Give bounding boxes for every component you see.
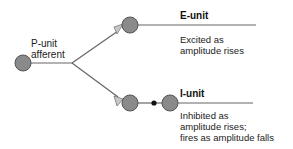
interneuron-icon [122, 95, 138, 111]
afferent-label-line1: P-unit [31, 38, 65, 49]
e-unit-description: Excited as amplitude rises [180, 34, 244, 56]
i-unit-description: Inhibited as amplitude rises; fires as a… [180, 110, 274, 143]
e-unit-desc-line1: Excited as [180, 34, 244, 45]
afferent-label-line2: afferent [31, 49, 65, 60]
i-unit-desc-line1: Inhibited as [180, 110, 274, 121]
inhibitory-synapse-icon [151, 100, 156, 105]
p-unit-neuron-icon [15, 55, 31, 71]
branch-to-e-unit [72, 31, 118, 63]
e-unit-title: E-unit [180, 10, 208, 21]
e-unit-desc-line2: amplitude rises [180, 45, 244, 56]
i-unit-desc-line3: fires as amplitude falls [180, 132, 274, 143]
i-unit-neuron-icon [162, 95, 178, 111]
afferent-label: P-unit afferent [31, 38, 65, 60]
e-unit-neuron-icon [122, 17, 138, 33]
i-unit-title: I-unit [180, 88, 204, 99]
branch-to-interneuron [72, 63, 118, 97]
i-unit-desc-line2: amplitude rises; [180, 121, 274, 132]
